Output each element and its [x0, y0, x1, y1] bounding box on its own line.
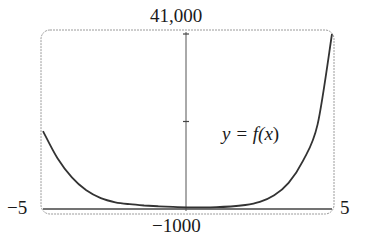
plot-area: [0, 0, 371, 238]
function-curve: [43, 34, 332, 207]
